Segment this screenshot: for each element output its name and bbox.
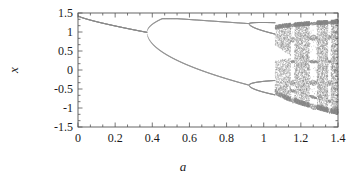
x-tick-label: 0.6 — [182, 131, 197, 145]
y-tick-label: -1.5 — [54, 120, 73, 134]
x-tick-label: 1 — [261, 131, 267, 145]
attractor-points — [78, 16, 338, 114]
plot-canvas: 00.20.40.60.811.21.4-1.5-1-0.500.511.5 a… — [0, 0, 357, 183]
axis-titles: ax — [6, 67, 187, 174]
y-tick-label: -1 — [63, 101, 73, 115]
bifurcation-diagram-figure: 00.20.40.60.811.21.4-1.5-1-0.500.511.5 a… — [0, 0, 357, 183]
y-tick-label: -0.5 — [54, 82, 73, 96]
x-tick-label: 1.4 — [331, 131, 346, 145]
x-tick-label: 0.8 — [219, 131, 234, 145]
y-tick-label: 0 — [67, 63, 73, 77]
y-tick-label: 0.5 — [58, 44, 73, 58]
x-tick-label: 1.2 — [293, 131, 308, 145]
y-tick-label: 1 — [67, 25, 73, 39]
x-axis-title: a — [180, 159, 187, 174]
x-tick-label: 0.4 — [145, 131, 160, 145]
x-tick-label: 0 — [75, 131, 81, 145]
y-tick-label: 1.5 — [58, 6, 73, 20]
y-axis-title: x — [6, 67, 21, 74]
x-tick-label: 0.2 — [108, 131, 123, 145]
data-points-layer — [78, 16, 338, 114]
